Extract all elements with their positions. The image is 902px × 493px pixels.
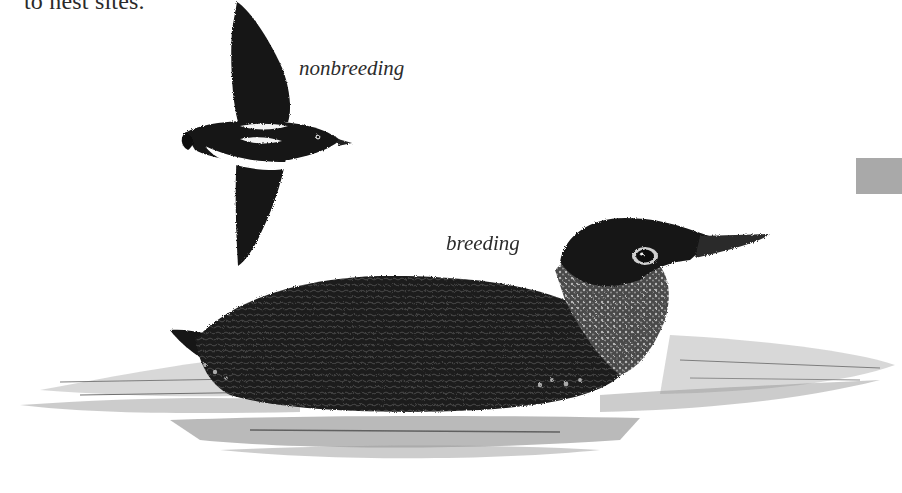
flying-bird-illustration xyxy=(182,2,352,266)
caption-nonbreeding: nonbreeding xyxy=(299,56,404,81)
page-thumb-tab xyxy=(856,158,902,194)
caption-breeding: breeding xyxy=(446,231,520,256)
